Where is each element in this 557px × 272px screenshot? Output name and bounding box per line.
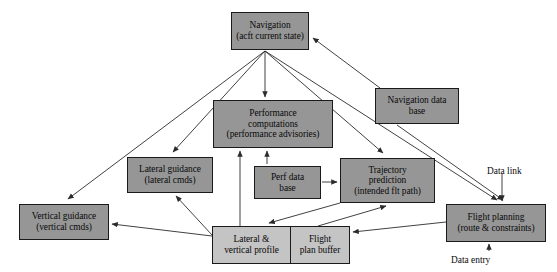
node-flight-plan-buffer[interactable]: Flightplan buffer bbox=[291, 227, 349, 263]
node-navigation[interactable]: Navigation(acft current state) bbox=[231, 12, 309, 50]
flight-plan-buffer-line-1: Flight bbox=[309, 234, 331, 245]
node-lateral-vertical-profile[interactable]: Lateral &vertical profile bbox=[213, 227, 291, 263]
trajectory-prediction-line-1: Trajectory bbox=[368, 165, 406, 176]
label-data-entry: Data entry bbox=[451, 255, 490, 265]
lateral-vertical-profile-line-2: vertical profile bbox=[224, 245, 279, 256]
edge-flight-plan-buffer-to-trajectory-prediction bbox=[318, 206, 386, 226]
fms-block-diagram: Navigation(acft current state)Navigation… bbox=[0, 0, 557, 272]
node-vertical-guidance[interactable]: Vertical guidance(vertical cmds) bbox=[19, 204, 109, 240]
node-lateral-guidance[interactable]: Lateral guidance(lateral cmds) bbox=[127, 157, 213, 193]
edge-lateral-vertical-profile-to-vertical-guidance bbox=[112, 224, 212, 236]
node-profile-buffer: Lateral &vertical profileFlightplan buff… bbox=[212, 226, 350, 264]
edge-lateral-vertical-profile-to-lateral-guidance bbox=[176, 196, 212, 235]
navigation-data-base-line-2: base bbox=[409, 106, 425, 117]
flight-plan-buffer-line-2: plan buffer bbox=[300, 245, 341, 256]
edge-trajectory-prediction-to-lateral-vertical-profile bbox=[269, 203, 340, 223]
vertical-guidance-line-2: (vertical cmds) bbox=[36, 222, 92, 233]
perf-data-base-line-1: Perf data bbox=[271, 172, 304, 183]
node-flight-planning[interactable]: Flight planning(route & constraints) bbox=[446, 204, 546, 242]
performance-computations-line-1: Performance bbox=[249, 108, 296, 119]
flight-planning-line-1: Flight planning bbox=[468, 212, 525, 223]
trajectory-prediction-line-2: prediction bbox=[369, 175, 407, 186]
node-perf-data-base[interactable]: Perf database bbox=[254, 166, 321, 199]
node-navigation-data-base[interactable]: Navigation database bbox=[375, 88, 459, 124]
label-data-link: Data link bbox=[487, 166, 522, 176]
navigation-line-1: Navigation bbox=[249, 20, 290, 31]
lateral-guidance-line-1: Lateral guidance bbox=[139, 164, 201, 175]
lateral-guidance-line-2: (lateral cmds) bbox=[144, 175, 195, 186]
trajectory-prediction-line-3: (intended flt path) bbox=[354, 186, 421, 197]
flight-planning-line-2: (route & constraints) bbox=[457, 223, 534, 234]
navigation-data-base-line-1: Navigation data bbox=[388, 95, 447, 106]
edge-navigation-data-base-to-navigation bbox=[313, 38, 380, 88]
edge-flight-planning-to-flight-plan-buffer bbox=[353, 222, 446, 232]
performance-computations-line-2: computations bbox=[248, 119, 298, 130]
node-trajectory-prediction[interactable]: Trajectoryprediction(intended flt path) bbox=[340, 158, 435, 203]
vertical-guidance-line-1: Vertical guidance bbox=[32, 211, 96, 222]
navigation-line-2: (acft current state) bbox=[236, 31, 304, 42]
node-performance-computations[interactable]: Performancecomputations(performance advi… bbox=[213, 100, 333, 148]
performance-computations-line-3: (performance advisories) bbox=[227, 129, 320, 140]
perf-data-base-line-2: base bbox=[279, 183, 295, 194]
lateral-vertical-profile-line-1: Lateral & bbox=[234, 234, 270, 245]
